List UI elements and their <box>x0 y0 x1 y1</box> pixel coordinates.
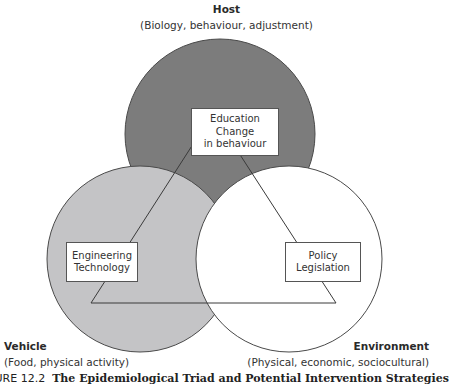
caption-prefix: GURE 12.2 <box>0 372 45 385</box>
vehicle-subtitle: (Food, physical activity) <box>4 356 129 369</box>
policy-line1: Policy <box>309 250 338 263</box>
host-label: Host (Biology, behaviour, adjustment) <box>10 3 443 32</box>
figure-caption: GURE 12.2 The Epidemiological Triad and … <box>0 372 449 385</box>
environment-title: Environment <box>247 340 429 353</box>
policy-line2: Legislation <box>296 262 350 275</box>
education-line3: in behaviour <box>204 138 267 151</box>
education-line2: Change <box>216 126 254 139</box>
environment-label: Environment (Physical, economic, sociocu… <box>247 340 429 369</box>
policy-box: Policy Legislation <box>285 242 361 282</box>
caption-title: The Epidemiological Triad and Potential … <box>52 372 449 385</box>
host-title: Host <box>10 3 443 16</box>
environment-subtitle: (Physical, economic, sociocultural) <box>247 356 429 369</box>
engineering-line2: Technology <box>74 262 130 275</box>
education-box: Education Change in behaviour <box>191 108 279 156</box>
engineering-line1: Engineering <box>72 250 132 263</box>
host-subtitle: (Biology, behaviour, adjustment) <box>10 19 443 32</box>
vehicle-title: Vehicle <box>4 340 129 353</box>
engineering-box: Engineering Technology <box>66 242 138 282</box>
vehicle-label: Vehicle (Food, physical activity) <box>4 340 129 369</box>
education-line1: Education <box>210 113 260 126</box>
